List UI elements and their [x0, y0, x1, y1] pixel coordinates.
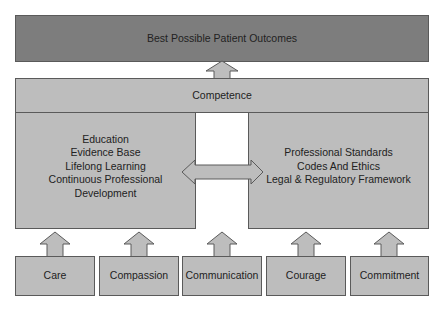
- up-arrow-icon: [206, 232, 238, 257]
- value-box-commitment: Commitment: [350, 256, 429, 296]
- education-box: Education Evidence Base Lifelong Learnin…: [15, 112, 196, 229]
- outcomes-label: Best Possible Patient Outcomes: [147, 32, 297, 46]
- up-arrow-icon: [373, 232, 405, 257]
- value-label: Care: [44, 269, 67, 283]
- competence-label: Competence: [192, 89, 252, 103]
- education-line: Evidence Base: [49, 146, 163, 160]
- education-line: Lifelong Learning: [49, 160, 163, 174]
- value-box-care: Care: [15, 256, 95, 296]
- value-box-compassion: Compassion: [99, 256, 179, 296]
- value-box-communication: Communication: [182, 256, 262, 296]
- value-box-courage: Courage: [266, 256, 346, 296]
- value-label: Communication: [186, 269, 259, 283]
- up-arrow-icon: [39, 232, 71, 257]
- value-label: Courage: [286, 269, 326, 283]
- education-line: Continuous Professional: [49, 173, 163, 187]
- value-label: Compassion: [110, 269, 168, 283]
- outcomes-box: Best Possible Patient Outcomes: [15, 15, 429, 62]
- standards-line: Professional Standards: [266, 146, 411, 160]
- competence-band: Competence: [15, 78, 429, 113]
- up-arrow-icon: [205, 61, 239, 79]
- up-arrow-icon: [123, 232, 155, 257]
- education-line: Development: [49, 187, 163, 201]
- standards-line: Codes And Ethics: [266, 160, 411, 174]
- double-arrow-icon: [182, 159, 264, 185]
- standards-line: Legal & Regulatory Framework: [266, 173, 411, 187]
- education-line: Education: [49, 133, 163, 147]
- value-label: Commitment: [360, 269, 420, 283]
- up-arrow-icon: [290, 232, 322, 257]
- standards-box: Professional Standards Codes And Ethics …: [248, 112, 429, 229]
